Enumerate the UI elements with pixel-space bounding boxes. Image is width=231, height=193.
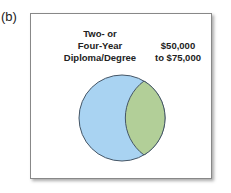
venn-diagram [0,0,231,193]
